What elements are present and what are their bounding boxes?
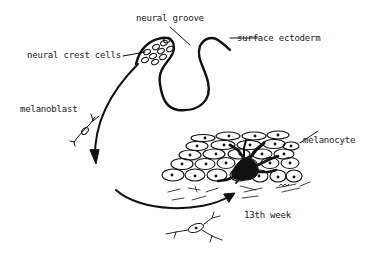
label-neural-crest-cells: neural crest cells <box>27 51 121 60</box>
neural-tube-fold <box>91 34 258 110</box>
dermal-fibroblast <box>166 212 222 242</box>
label-melanocyte: melanocyte <box>303 136 355 145</box>
melanoblast-cell <box>70 114 99 146</box>
migration-arrow-down <box>90 64 138 164</box>
label-melanoblast: melanoblast <box>20 105 77 114</box>
label-timepoint: 13th week <box>244 211 291 220</box>
label-neural-groove: neural groove <box>136 14 204 23</box>
neural-crest-leader <box>123 52 145 56</box>
label-surface-ectoderm: surface ectoderm <box>237 34 321 43</box>
